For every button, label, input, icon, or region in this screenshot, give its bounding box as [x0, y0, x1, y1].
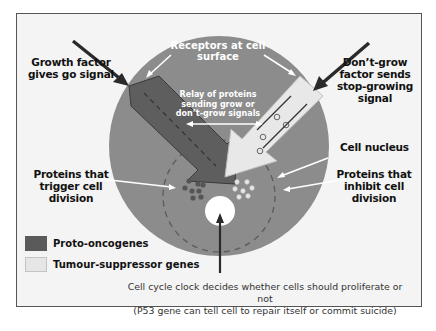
relay-label: Relay of proteins sending grow or don’t-…	[170, 90, 266, 119]
proteins-inhibit-label: Proteins that inhibit cell division	[326, 168, 422, 204]
legend-tumour-suppressor: Tumour-suppressor genes	[25, 257, 199, 272]
proteins-trigger-label: Proteins that trigger cell division	[22, 168, 120, 204]
receptors-label: Receptors at cell surface	[168, 40, 268, 62]
caption: Cell cycle clock decides whether cells s…	[120, 281, 410, 317]
legend-proto-oncogenes: Proto-oncogenes	[25, 236, 149, 251]
dont-grow-factor-label: Don’t-grow factor sends stop-growing sig…	[330, 56, 420, 104]
growth-factor-label: Growth factor gives go signal	[22, 56, 120, 80]
tumour-suppressor-swatch	[25, 257, 47, 272]
cell-nucleus-label: Cell nucleus	[340, 141, 420, 153]
proto-oncogene-swatch	[25, 236, 47, 251]
